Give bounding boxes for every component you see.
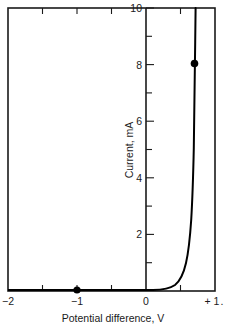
iv-characteristic-chart: 10 8 6 4 2 −2 −1 0 + 1 . Potential diffe… [0,0,227,328]
data-point-marker [191,60,199,68]
data-point-marker [73,286,80,293]
diode-curve [153,8,196,290]
plot-frame [8,8,215,291]
y-tick-label: 8 [136,59,142,71]
y-axis-title: Current, mA [123,122,135,179]
y-tick-label: 6 [136,115,142,127]
y-axis-major-ticks [146,8,154,234]
x-axis-title: Potential difference, V [62,312,165,324]
top-axis-ticks [43,8,181,14]
x-tick-label: 0 [143,295,149,307]
y-axis-minor-ticks [146,36,152,262]
figure-container: 10 8 6 4 2 −2 −1 0 + 1 . Potential diffe… [0,0,227,328]
x-tick-label: + 1 [205,295,220,307]
x-tick-label: −2 [2,295,14,307]
y-tick-label: 4 [136,172,142,184]
trailing-period: . [221,295,224,307]
x-tick-label: −1 [71,295,83,307]
y-tick-label: 10 [130,2,142,14]
y-tick-label: 2 [136,228,142,240]
